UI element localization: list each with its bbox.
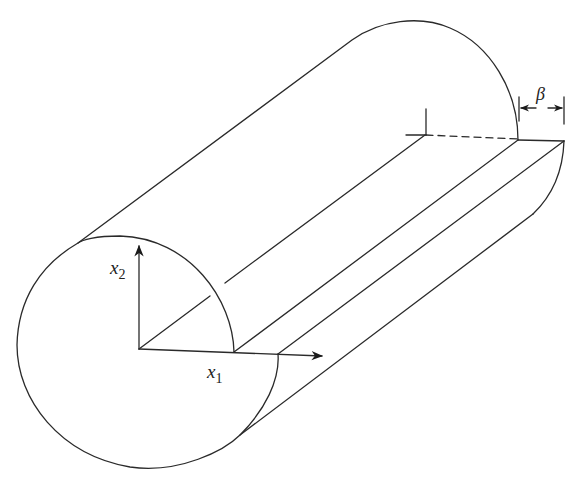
cylinder-axis-front [139, 296, 210, 349]
x2-label: x2 [109, 257, 125, 282]
dashed-reference-line [426, 135, 518, 139]
x1-axis [139, 349, 322, 356]
front-face-outline [17, 236, 278, 468]
groove-rear-edge [518, 140, 564, 141]
cylinder-axis-rear [225, 135, 425, 283]
top-silhouette-line [78, 21, 518, 243]
beta-label: β [535, 84, 545, 104]
x1-label: x1 [206, 361, 222, 386]
groove-outer-edge [278, 141, 564, 354]
bottom-silhouette-line [240, 214, 533, 435]
cylinder-diagram: x2 x1 β [0, 0, 578, 488]
